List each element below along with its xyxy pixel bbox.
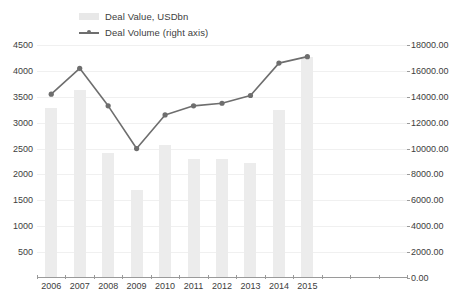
chart-legend: Deal Value, USDbn Deal Volume (right axi… [79,10,208,42]
chart-container: Deal Value, USDbn Deal Volume (right axi… [0,0,455,305]
y-axis-right-tick-mark [407,71,410,72]
line-marker-2011 [191,103,196,108]
line-marker-2009 [134,146,139,151]
y-axis-right-tick-mark [407,226,410,227]
line-path [51,57,307,149]
line-marker-2012 [219,101,224,106]
y-axis-left-tick-label: 2000 [0,169,33,179]
line-marker-2010 [162,112,167,117]
line-marker-2014 [276,61,281,66]
x-axis-tick-mark [407,275,408,279]
y-axis-left-tick-label: 2500 [0,144,33,154]
y-axis-right-tick-mark [407,123,410,124]
line-marker-2007 [77,66,82,71]
y-axis-right-tick-mark [407,97,410,98]
y-axis-right-tick-label: 10000.00 [411,144,455,154]
y-axis-right-tick-mark [407,252,410,253]
line-marker-2006 [49,92,54,97]
y-axis-right-tick-label: 14000.00 [411,92,455,102]
legend-line-swatch-icon [79,29,99,36]
y-axis-left-tick-label: 4000 [0,66,33,76]
y-axis-left-tick-label: 1000 [0,221,33,231]
y-axis-right-tick-mark [407,45,410,46]
line-series-deal-volume [37,45,407,278]
y-axis-right-tick-label: 12000.00 [411,118,455,128]
y-axis-right-tick-mark [407,149,410,150]
legend-item-deal-volume: Deal Volume (right axis) [79,26,208,39]
y-axis-left-tick-label: 1500 [0,195,33,205]
y-axis-left-tick-label: 3000 [0,118,33,128]
line-marker-2013 [248,93,253,98]
y-axis-right-tick-label: 2000.00 [411,247,455,257]
y-axis-left-tick-label: 3500 [0,92,33,102]
x-axis-label-2015: 2015 [287,281,327,291]
plot-area: 4500400035003000250020001500100050018000… [37,45,407,278]
y-axis-right-tick-mark [407,174,410,175]
y-axis-left-tick-label: 4500 [0,40,33,50]
y-axis-right-tick-mark [407,200,410,201]
line-marker-2015 [305,54,310,59]
legend-bar-swatch-icon [79,13,99,20]
y-axis-right-tick-label: 8000.00 [411,169,455,179]
y-axis-right-tick-label: 16000.00 [411,66,455,76]
y-axis-right-tick-label: 18000.00 [411,40,455,50]
legend-label-deal-value: Deal Value, USDbn [105,11,188,22]
y-axis-right-tick-label: 0.00 [411,273,455,283]
y-axis-right-tick-label: 4000.00 [411,221,455,231]
y-axis-left-tick-label: 500 [0,247,33,257]
legend-item-deal-value: Deal Value, USDbn [79,10,208,23]
line-marker-2008 [106,103,111,108]
y-axis-right-tick-label: 6000.00 [411,195,455,205]
legend-label-deal-volume: Deal Volume (right axis) [105,27,208,38]
